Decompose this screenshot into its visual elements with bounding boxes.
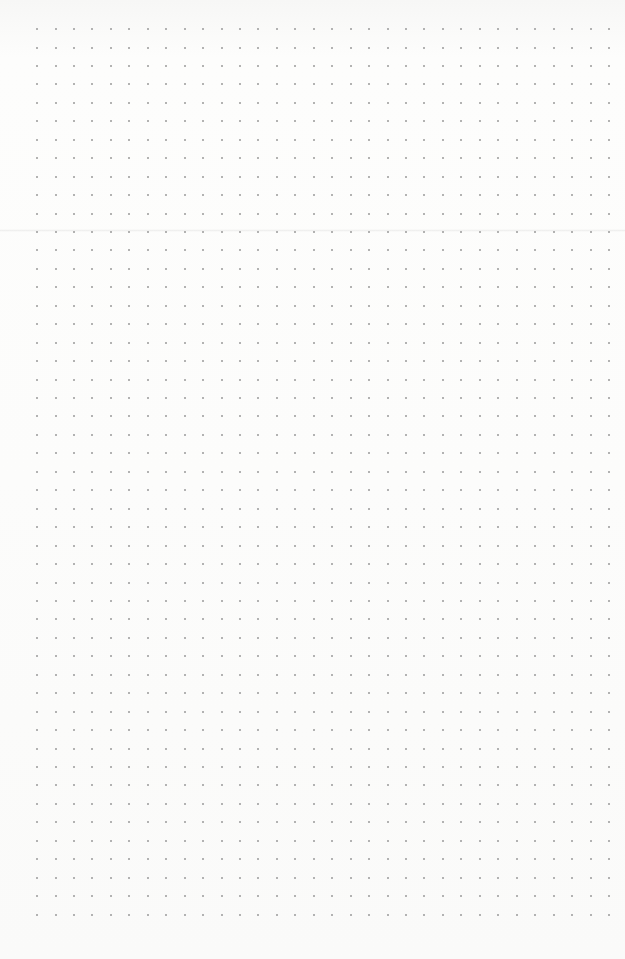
grid-dot <box>221 803 223 805</box>
grid-dot <box>331 249 333 251</box>
grid-dot <box>553 194 555 196</box>
grid-dot <box>497 821 499 823</box>
grid-dot <box>534 28 536 30</box>
grid-dot <box>608 563 610 565</box>
grid-dot <box>608 452 610 454</box>
grid-dot <box>239 120 241 122</box>
grid-dot <box>516 65 518 67</box>
grid-dot <box>534 784 536 786</box>
grid-dot <box>165 286 167 288</box>
grid-dot <box>608 213 610 215</box>
grid-dot <box>36 711 38 713</box>
grid-dot <box>110 268 112 270</box>
grid-dot <box>202 249 204 251</box>
grid-dot <box>497 83 499 85</box>
grid-dot <box>534 268 536 270</box>
grid-dot <box>36 821 38 823</box>
grid-dot <box>294 139 296 141</box>
grid-dot <box>91 692 93 694</box>
grid-dot <box>202 692 204 694</box>
grid-dot <box>276 379 278 381</box>
grid-dot <box>405 65 407 67</box>
grid-dot <box>276 397 278 399</box>
grid-dot <box>184 268 186 270</box>
grid-dot <box>608 360 610 362</box>
grid-dot <box>147 268 149 270</box>
grid-dot <box>239 600 241 602</box>
grid-dot <box>147 803 149 805</box>
grid-dot <box>184 692 186 694</box>
grid-dot <box>36 286 38 288</box>
grid-dot <box>128 268 130 270</box>
grid-dot <box>73 213 75 215</box>
grid-dot <box>368 452 370 454</box>
grid-dot <box>516 692 518 694</box>
grid-dot <box>110 748 112 750</box>
grid-dot <box>202 784 204 786</box>
grid-dot <box>479 748 481 750</box>
grid-dot <box>405 600 407 602</box>
grid-dot <box>36 120 38 122</box>
grid-dot <box>165 692 167 694</box>
grid-dot <box>91 176 93 178</box>
grid-dot <box>128 692 130 694</box>
grid-dot <box>534 821 536 823</box>
grid-dot <box>387 194 389 196</box>
grid-dot <box>239 582 241 584</box>
grid-dot <box>165 914 167 916</box>
grid-dot <box>165 120 167 122</box>
grid-dot <box>202 637 204 639</box>
grid-dot <box>460 249 462 251</box>
grid-dot <box>368 600 370 602</box>
grid-dot <box>479 323 481 325</box>
grid-dot <box>91 194 93 196</box>
grid-dot <box>331 268 333 270</box>
grid-dot <box>460 895 462 897</box>
grid-dot <box>91 618 93 620</box>
grid-dot <box>331 840 333 842</box>
grid-dot <box>553 618 555 620</box>
grid-dot <box>91 784 93 786</box>
grid-dot <box>91 489 93 491</box>
grid-dot <box>128 545 130 547</box>
grid-dot <box>350 28 352 30</box>
grid-dot <box>423 600 425 602</box>
grid-dot <box>534 766 536 768</box>
grid-dot <box>590 766 592 768</box>
grid-dot <box>36 637 38 639</box>
grid-dot <box>55 545 57 547</box>
grid-dot <box>294 840 296 842</box>
grid-dot <box>479 65 481 67</box>
grid-dot <box>221 268 223 270</box>
grid-dot <box>460 452 462 454</box>
grid-dot <box>479 914 481 916</box>
grid-dot <box>202 563 204 565</box>
grid-dot <box>128 102 130 104</box>
grid-dot <box>276 637 278 639</box>
grid-dot <box>257 231 259 233</box>
grid-dot <box>350 323 352 325</box>
grid-dot <box>221 102 223 104</box>
grid-dot <box>368 415 370 417</box>
grid-dot <box>91 249 93 251</box>
grid-dot <box>294 877 296 879</box>
grid-dot <box>516 508 518 510</box>
grid-dot <box>423 139 425 141</box>
grid-dot <box>202 545 204 547</box>
grid-dot <box>516 47 518 49</box>
grid-dot <box>276 471 278 473</box>
grid-dot <box>55 618 57 620</box>
grid-dot <box>184 120 186 122</box>
grid-dot <box>460 526 462 528</box>
grid-dot <box>36 784 38 786</box>
grid-dot <box>36 803 38 805</box>
grid-dot <box>387 858 389 860</box>
grid-dot <box>147 545 149 547</box>
grid-dot <box>534 914 536 916</box>
grid-dot <box>405 655 407 657</box>
grid-dot <box>405 28 407 30</box>
grid-dot <box>608 508 610 510</box>
grid-dot <box>184 600 186 602</box>
grid-dot <box>534 655 536 657</box>
grid-dot <box>534 489 536 491</box>
